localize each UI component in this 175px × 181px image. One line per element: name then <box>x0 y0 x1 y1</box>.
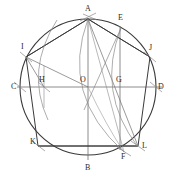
point-label-a: A <box>85 5 91 13</box>
point-label-k: K <box>30 138 36 146</box>
arc-from-c <box>38 20 57 120</box>
segment-eo <box>84 28 121 110</box>
point-label-g: G <box>116 76 122 84</box>
construction-canvas <box>0 0 175 181</box>
chord-ai <box>26 19 88 57</box>
point-label-e: E <box>118 14 123 22</box>
point-label-d: D <box>158 83 164 91</box>
point-label-h: H <box>39 76 45 84</box>
chord-aj <box>88 19 150 57</box>
point-label-j: J <box>149 44 152 52</box>
point-label-l: L <box>142 142 147 150</box>
arc-through-e-l <box>112 28 138 147</box>
point-label-c: C <box>11 83 16 91</box>
point-label-b: B <box>85 164 90 172</box>
point-label-f: F <box>121 153 125 161</box>
geometric-figure: A E I J C H O G D K L F B <box>0 0 175 181</box>
point-label-o: O <box>80 76 86 84</box>
chord-al <box>88 19 138 146</box>
point-label-i: I <box>21 43 24 51</box>
segment-a-f <box>88 19 124 152</box>
